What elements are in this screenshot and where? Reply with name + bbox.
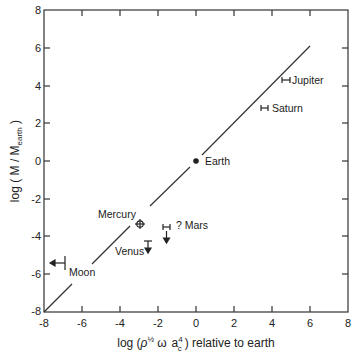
y-tick-label: -4 xyxy=(31,230,41,242)
venus-label: Venus xyxy=(115,245,144,257)
moon-marker xyxy=(50,256,65,270)
earth-marker xyxy=(194,159,198,163)
y-tick-label: 6 xyxy=(35,42,41,54)
mass-vs-rotation-chart: -8 -6 -4 -2 0 2 4 6 8 8 6 4 2 0 -2 -4 -6… xyxy=(0,0,358,355)
y-tick-label: -8 xyxy=(31,305,41,317)
x-tick-label: -8 xyxy=(39,317,49,329)
x-tick-label: 6 xyxy=(307,317,313,329)
mercury-label: Mercury xyxy=(98,208,137,220)
y-tick-label: 2 xyxy=(35,117,41,129)
venus-marker xyxy=(144,241,152,253)
x-tick-label: 4 xyxy=(269,317,275,329)
mercury-marker xyxy=(135,219,145,229)
x-tick-label: -6 xyxy=(77,317,87,329)
x-tick-label: 8 xyxy=(345,317,351,329)
saturn-marker xyxy=(261,105,268,111)
y-tick-label: 8 xyxy=(35,4,41,16)
x-tick-label: -4 xyxy=(115,317,125,329)
x-tick-label: -2 xyxy=(153,317,163,329)
y-tick-label: 0 xyxy=(35,155,41,167)
x-tick-label: 2 xyxy=(231,317,237,329)
x-axis-label: log (ρ½ωa4c) relative to earth xyxy=(117,335,274,353)
y-axis-label: log ( M / Mearth ) xyxy=(8,120,24,202)
mars-label: ? Mars xyxy=(176,219,208,231)
x-tick-label: 0 xyxy=(193,317,199,329)
jupiter-marker xyxy=(282,77,290,83)
y-tick-label: 4 xyxy=(35,80,41,92)
jupiter-label: Jupiter xyxy=(292,74,324,86)
earth-label: Earth xyxy=(205,155,230,167)
mars-marker xyxy=(163,224,170,243)
moon-label: Moon xyxy=(69,266,95,278)
y-tick-label: -2 xyxy=(31,193,41,205)
saturn-label: Saturn xyxy=(272,102,303,114)
y-tick-label: -6 xyxy=(31,268,41,280)
